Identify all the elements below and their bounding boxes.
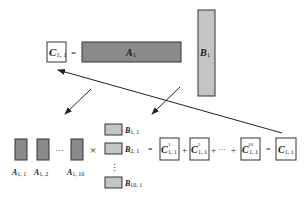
b-block-10-1: B10, 1 (105, 177, 142, 188)
svg-text:1, 1: 1, 1 (198, 149, 207, 155)
result-equals: = (266, 145, 271, 154)
result-back-arrow (58, 70, 282, 133)
b-block-1-1: B1, 1 (105, 124, 139, 135)
top-c-block: C1, 1 (47, 42, 67, 62)
times-sign: × (90, 144, 96, 156)
split-a-arrow (65, 89, 91, 114)
bottom-equals: = (148, 145, 153, 154)
a-block-1-2: A1, 2 (33, 139, 49, 177)
sum-ellipsis: ··· (218, 145, 226, 154)
svg-text:A1, 1: A1, 1 (11, 168, 26, 177)
svg-text:1, 1: 1, 1 (168, 149, 177, 155)
partial-c-2: C 2 1, 1 (190, 138, 209, 160)
svg-text:A1, 10: A1, 10 (66, 168, 84, 177)
a-block-1-10: A1, 10 (66, 139, 84, 177)
partial-c-10: C 10 1, 1 (241, 138, 260, 160)
svg-text:B2, 1: B2, 1 (124, 145, 139, 154)
svg-text:C: C (161, 144, 168, 155)
svg-text:10: 10 (248, 142, 254, 147)
svg-text:1, 1: 1, 1 (249, 149, 258, 155)
svg-text:A1, 2: A1, 2 (33, 168, 48, 177)
plus-2: + (211, 145, 216, 155)
top-a-row-block: A1 (82, 42, 181, 62)
svg-text:B10, 1: B10, 1 (124, 179, 142, 188)
block-matrix-diagram: C1, 1 = A1 B1 A1, 1 A1, 2 ··· A1, 10 × B… (0, 0, 306, 200)
a-block-1-1: A1, 1 (11, 139, 27, 177)
partial-c-1: C 1 1, 1 (160, 138, 179, 160)
top-equals: = (71, 48, 76, 58)
svg-text:B1, 1: B1, 1 (124, 126, 139, 135)
result-c-block: C1, 1 (276, 138, 296, 160)
plus-1: + (182, 145, 187, 155)
plus-3: + (231, 145, 236, 155)
a-ellipsis: ··· (55, 145, 64, 155)
b-block-2-1: B2, 1 (105, 143, 139, 154)
svg-text:C: C (191, 144, 198, 155)
top-b-column-block: B1 (198, 10, 215, 96)
b-ellipsis: ⋮ (110, 163, 119, 173)
